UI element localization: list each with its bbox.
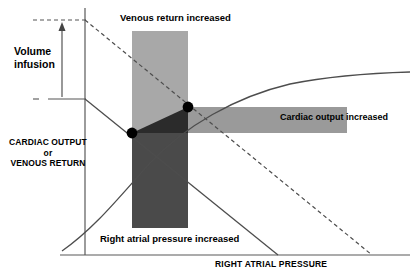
venous-return-curve-volume-infusion	[85, 20, 372, 255]
volume-infusion-arrow-head	[59, 22, 66, 31]
volume-infusion-label-line1: Volume	[14, 45, 55, 58]
equilibrium-point-normal	[127, 128, 138, 139]
y-axis-label-line3: VENOUS RETURN	[9, 158, 87, 169]
volume-infusion-label-line2: infusion	[14, 58, 55, 71]
venous-return-increased-label: Venous return increased	[120, 12, 231, 24]
cardiac-output-increased-label: Cardiac output increased	[280, 112, 388, 123]
shaded-region-right-atrial-pressure-increased	[132, 133, 188, 228]
x-axis-label: RIGHT ATRIAL PRESSURE	[215, 259, 327, 270]
y-axis-label-line2: or	[9, 148, 87, 159]
y-axis-label-line1: CARDIAC OUTPUT	[9, 137, 87, 148]
volume-infusion-label: Volume infusion	[14, 45, 55, 71]
y-axis-label: CARDIAC OUTPUT or VENOUS RETURN	[9, 137, 87, 169]
equilibrium-point-after-infusion	[183, 102, 194, 113]
cardiac-output-venous-return-diagram: Volume infusion CARDIAC OUTPUT or VENOUS…	[0, 0, 410, 279]
right-atrial-pressure-increased-label: Right atrial pressure increased	[100, 233, 239, 245]
cardiac-output-curve	[62, 72, 410, 251]
